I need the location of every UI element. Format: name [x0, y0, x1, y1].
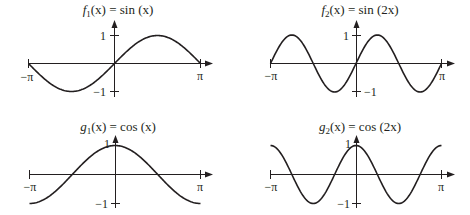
x-tick-label: −π: [265, 180, 278, 194]
x-axis-arrow-icon: [205, 61, 213, 67]
x-tick-label: π: [197, 69, 203, 83]
chart-title: g2(x) = cos (2x): [319, 119, 401, 136]
x-tick-label: −π: [21, 70, 34, 84]
panel-g1: g1(x) = cos (x) −π π 1 −1: [24, 119, 213, 211]
y-tick-label: −1: [93, 85, 106, 99]
x-tick-label: π: [197, 180, 203, 194]
x-axis-arrow-icon: [205, 172, 213, 178]
function-graphs: f1(x) = sin (x) −π π 1 −1 f2(x) = sin (2…: [0, 0, 470, 215]
x-tick-label: π: [439, 69, 445, 83]
y-axis-arrow-icon: [354, 135, 360, 143]
y-axis-arrow-icon: [112, 20, 118, 28]
x-axis-arrow-icon: [447, 61, 455, 67]
x-tick-label: π: [438, 180, 444, 194]
y-axis-arrow-icon: [354, 20, 360, 28]
y-axis-arrow-icon: [113, 135, 119, 143]
x-tick-label: −π: [265, 69, 278, 83]
chart-title: f1(x) = sin (x): [83, 2, 154, 19]
x-axis-arrow-icon: [447, 172, 455, 178]
x-tick-label: −π: [24, 180, 37, 194]
panel-f2: f2(x) = sin (2x) −π π 1 −1: [265, 2, 455, 99]
panel-f1: f1(x) = sin (x) −π π 1 −1: [21, 2, 213, 99]
panel-g2: g2(x) = cos (2x) −π π 1 −1: [265, 119, 455, 211]
y-tick-label: −1: [337, 197, 350, 211]
y-tick-label: −1: [95, 197, 108, 211]
y-tick-label: 1: [100, 29, 106, 43]
y-tick-label: −1: [364, 85, 377, 99]
chart-title: g1(x) = cos (x): [80, 119, 156, 136]
y-tick-label: 1: [104, 137, 110, 151]
chart-title: f2(x) = sin (2x): [321, 2, 398, 19]
y-tick-label: 1: [343, 29, 349, 43]
